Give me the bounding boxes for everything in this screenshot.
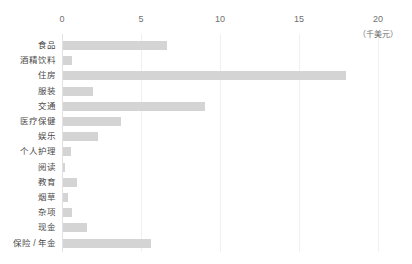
bar-row: 烟草 [0, 190, 412, 205]
bar-track [63, 87, 93, 96]
bar-track [63, 163, 65, 172]
bar [63, 208, 72, 217]
category-label: 交通 [0, 99, 56, 114]
bar [63, 147, 71, 156]
bar [63, 239, 151, 248]
category-label: 医疗保健 [0, 114, 56, 129]
bar-row: 住房 [0, 68, 412, 83]
category-label: 烟草 [0, 190, 56, 205]
category-label: 教育 [0, 175, 56, 190]
bar-track [63, 178, 77, 187]
bar-row: 教育 [0, 175, 412, 190]
category-label: 现金 [0, 220, 56, 235]
bar-track [63, 239, 151, 248]
bar-track [63, 56, 72, 65]
bar-row: 个人护理 [0, 144, 412, 159]
x-tick-label: 10 [215, 14, 225, 24]
x-tick-label: 5 [138, 14, 143, 24]
bar [63, 56, 72, 65]
bar-row: 现金 [0, 220, 412, 235]
category-label: 个人护理 [0, 144, 56, 159]
bar-row: 医疗保健 [0, 114, 412, 129]
bar-track [63, 193, 68, 202]
bar-row: 娱乐 [0, 129, 412, 144]
bar-row: 食品 [0, 38, 412, 53]
bar [63, 117, 121, 126]
category-label: 保险 / 年金 [0, 236, 56, 251]
bar [63, 132, 98, 141]
bar-track [63, 71, 346, 80]
category-label: 酒精饮料 [0, 53, 56, 68]
x-tick-label: 20 [373, 14, 383, 24]
category-label: 娱乐 [0, 129, 56, 144]
category-label: 服装 [0, 84, 56, 99]
bar-chart: 05101520（千美元） 食品酒精饮料住房服装交通医疗保健娱乐个人护理阅读教育… [0, 0, 412, 264]
bar [63, 87, 93, 96]
bar-track [63, 208, 72, 217]
category-label: 阅读 [0, 160, 56, 175]
bar [63, 223, 87, 232]
bar [63, 193, 68, 202]
bar-row: 保险 / 年金 [0, 236, 412, 251]
bar-row: 交通 [0, 99, 412, 114]
bar-track [63, 147, 71, 156]
bar [63, 178, 77, 187]
bar-row: 酒精饮料 [0, 53, 412, 68]
bar-track [63, 132, 98, 141]
bar-row: 服装 [0, 84, 412, 99]
bar-row: 阅读 [0, 160, 412, 175]
bar-track [63, 223, 87, 232]
bar-track [63, 41, 167, 50]
x-tick-label: 15 [294, 14, 304, 24]
bar [63, 163, 65, 172]
category-label: 食品 [0, 38, 56, 53]
x-tick-label: 0 [59, 14, 64, 24]
bar-track [63, 117, 121, 126]
bar [63, 71, 346, 80]
category-label: 杂项 [0, 205, 56, 220]
bar [63, 102, 205, 111]
bar-row: 杂项 [0, 205, 412, 220]
category-label: 住房 [0, 68, 56, 83]
bar-track [63, 102, 205, 111]
bar [63, 41, 167, 50]
